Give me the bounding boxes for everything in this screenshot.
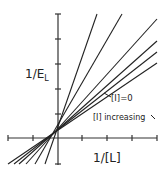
x-axis-label: 1/[L] [93,151,121,165]
axes [8,14,157,165]
chart: 1/EL 1/[L] [I]=0 [I] increasing [0,0,168,175]
y-axis-label: 1/EL [25,67,49,83]
annotation-increasing: [I] increasing [93,113,145,122]
line-i2 [19,41,157,164]
line-i3 [26,19,157,164]
line-i5 [45,14,97,164]
annotation-zero: [I]=0 [111,93,133,103]
increasing-arrow-icon [151,115,155,119]
data-lines [8,14,157,164]
